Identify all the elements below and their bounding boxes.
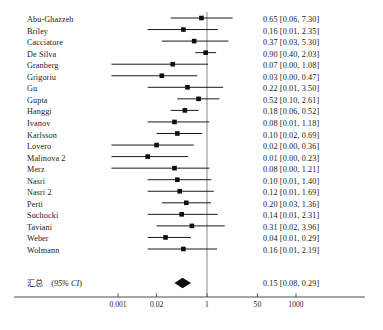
x-axis-tick-label: 0.001 — [109, 300, 126, 310]
summary-label-ci: 95% CI — [54, 279, 79, 288]
summary-label-cn: 汇总 — [27, 278, 43, 288]
summary-row-label: 汇总 (95% CI) — [27, 277, 82, 290]
x-axis-tick-label: 0.02 — [150, 300, 163, 310]
study-name-label: Wolmann — [27, 244, 59, 257]
x-axis-tick-label: 1 — [205, 300, 209, 310]
table-row: Wolmann0.16 [0.01, 2.19] — [0, 244, 383, 257]
forest-plot: Abu-Ghazzeh0.65 [0.06, 7.30]Briley0.16 [… — [0, 0, 383, 330]
summary-diamond — [174, 278, 191, 288]
study-estimate-label: 0.16 [0.01, 2.19] — [263, 244, 319, 257]
x-axis-tick-label: 1000 — [288, 300, 303, 310]
x-axis-tick-label: 50 — [254, 300, 262, 310]
summary-estimate-label: 0.15 [0.08, 0.29] — [263, 277, 319, 290]
